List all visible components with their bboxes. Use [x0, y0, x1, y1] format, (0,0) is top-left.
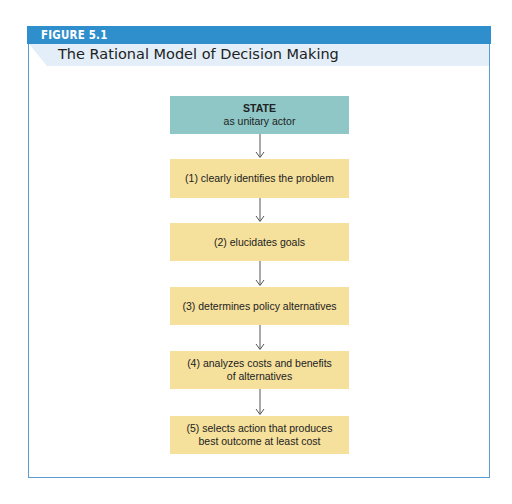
- step-5-line2: best outcome at least cost: [199, 435, 321, 448]
- figure-title: The Rational Model of Decision Making: [58, 46, 339, 62]
- figure-label: FIGURE 5.1: [41, 27, 108, 42]
- step-box-5: (5) selects action that produces best ou…: [170, 416, 349, 454]
- figure-header-bar: FIGURE 5.1: [27, 26, 491, 44]
- step-1-text: (1) clearly identifies the problem: [185, 172, 334, 185]
- state-subtitle: as unitary actor: [224, 115, 296, 128]
- state-title: STATE: [243, 102, 276, 115]
- step-4-line2: of alternatives: [227, 370, 292, 383]
- down-arrow-icon: [255, 325, 265, 351]
- down-arrow-icon: [255, 134, 265, 159]
- state-box: STATE as unitary actor: [170, 96, 349, 134]
- step-box-4: (4) analyzes costs and benefits of alter…: [170, 351, 349, 389]
- step-box-3: (3) determines policy alternatives: [170, 287, 349, 325]
- down-arrow-icon: [255, 198, 265, 223]
- step-2-text: (2) elucidates goals: [214, 236, 305, 249]
- down-arrow-icon: [255, 389, 265, 416]
- step-4-line1: (4) analyzes costs and benefits: [187, 357, 332, 370]
- step-5-line1: (5) selects action that produces: [187, 422, 333, 435]
- step-box-1: (1) clearly identifies the problem: [170, 159, 349, 198]
- step-3-text: (3) determines policy alternatives: [182, 300, 336, 313]
- down-arrow-icon: [255, 261, 265, 287]
- step-box-2: (2) elucidates goals: [170, 223, 349, 261]
